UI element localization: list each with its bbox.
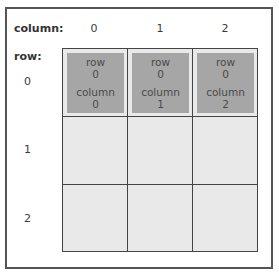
cell-row-value: 0 <box>67 68 124 80</box>
cell-row-label: row <box>67 56 124 68</box>
grid-line-vertical <box>127 49 128 251</box>
cell-0-0: row 0 column 0 <box>67 53 124 113</box>
cell-column-value: 1 <box>132 98 189 110</box>
cell-row-value: 0 <box>197 68 254 80</box>
row-axis-title: row: <box>14 50 42 63</box>
grid-line-horizontal <box>63 116 257 117</box>
cell-row-label: row <box>197 56 254 68</box>
cell-0-2: row 0 column 2 <box>197 53 254 113</box>
column-index-1: 1 <box>150 22 170 35</box>
cell-0-1: row 0 column 1 <box>132 53 189 113</box>
cell-column-label: column <box>67 86 124 98</box>
row-index-0: 0 <box>24 75 31 88</box>
cell-column-label: column <box>197 86 254 98</box>
grid-line-horizontal <box>63 184 257 185</box>
grid: row 0 column 0 row 0 column 1 row 0 colu… <box>62 48 258 252</box>
column-index-0: 0 <box>84 22 104 35</box>
column-axis-title: column: <box>14 22 63 35</box>
cell-column-value: 2 <box>197 98 254 110</box>
grid-line-vertical <box>192 49 193 251</box>
cell-row-label: row <box>132 56 189 68</box>
cell-row-value: 0 <box>132 68 189 80</box>
column-index-2: 2 <box>215 22 235 35</box>
cell-column-label: column <box>132 86 189 98</box>
cell-column-value: 0 <box>67 98 124 110</box>
row-index-1: 1 <box>24 143 31 156</box>
row-index-2: 2 <box>24 212 31 225</box>
